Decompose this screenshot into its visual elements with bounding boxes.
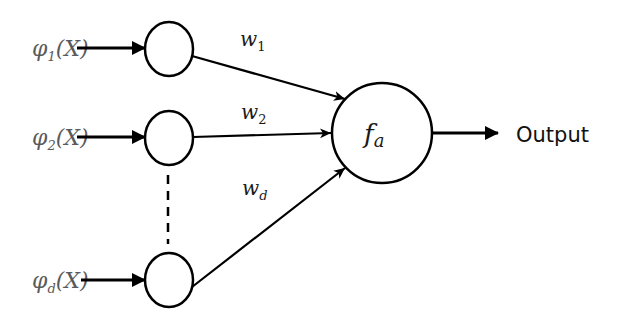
diagram-svg: φ1(X) φ2(X) φd(X) w1: [0, 0, 619, 326]
output-label: Output: [516, 123, 589, 147]
weighted-edge-d: [192, 168, 345, 287]
input-node-1: [145, 22, 193, 76]
weighted-edge-1: [192, 56, 345, 99]
input-node-2: [145, 111, 193, 165]
svg-text:φd(X): φd(X): [32, 268, 89, 296]
input-label-d: φd(X): [32, 268, 89, 296]
input-node-d: [145, 253, 193, 307]
svg-text:φ2(X): φ2(X): [32, 125, 89, 153]
input-label-2: φ2(X): [32, 125, 89, 153]
svg-text:φ1(X): φ1(X): [32, 36, 89, 64]
perceptron-diagram: φ1(X) φ2(X) φd(X) w1: [0, 0, 619, 326]
weighted-edge-2: [193, 133, 331, 137]
weight-label-d: wd: [242, 176, 267, 203]
weight-label-2: w2: [241, 100, 266, 127]
input-label-1: φ1(X): [32, 36, 89, 64]
weight-label-1: w1: [240, 27, 265, 54]
